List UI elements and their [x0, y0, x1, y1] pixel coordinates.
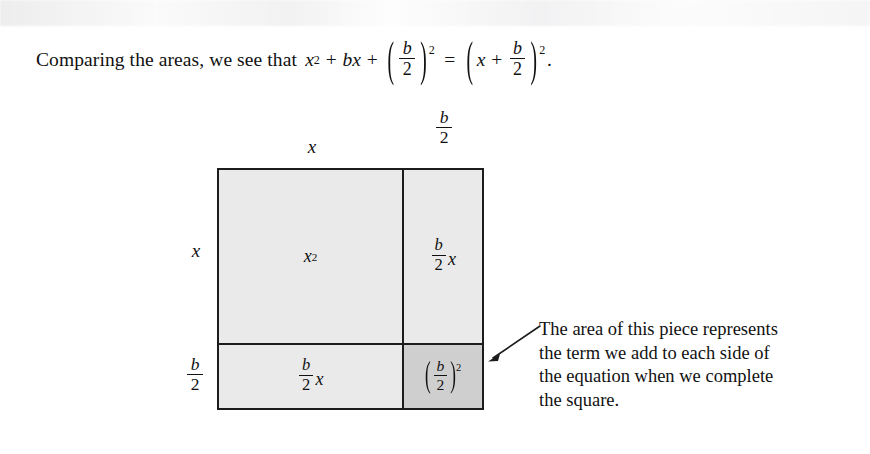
equation-term-b-over-2-squared: ( b 2 )2	[384, 40, 437, 80]
equation-term-bx: bx	[343, 50, 361, 70]
paren-close: )	[450, 355, 456, 397]
fraction-numerator: b	[436, 109, 451, 128]
b-symbol: b	[343, 50, 353, 70]
x-symbol: x	[308, 136, 316, 158]
fraction-b-over-2: b 2	[434, 358, 447, 393]
equation-term-x-squared: x2	[305, 50, 320, 70]
lead-sentence: Comparing the areas, we see that x2 + bx…	[36, 40, 552, 80]
cell-label: b 2 x	[298, 358, 324, 395]
fraction-numerator: b	[434, 358, 447, 375]
x-symbol: x	[305, 50, 314, 70]
paren-open: (	[388, 36, 395, 84]
area-cell-b-over-2-squared: ( b 2 )2	[404, 345, 482, 408]
paren-open: (	[425, 355, 431, 397]
equals-operator: =	[437, 50, 463, 70]
annotation-line-1: The area of this piece represents	[539, 318, 849, 342]
x-symbol: x	[477, 50, 486, 70]
annotation-line-4: the square.	[539, 389, 849, 413]
fraction-numerator: b	[187, 356, 202, 375]
dimension-label-left-b-over-2: b 2	[178, 350, 212, 402]
area-cell-x-squared: x2	[219, 170, 404, 345]
plus-operator-2: +	[361, 50, 384, 70]
fraction-b-over-2: b 2	[436, 109, 451, 148]
fraction-denominator: 2	[510, 58, 525, 78]
display-equation: x2 + bx + ( b 2 )2 = ( x + b 2 )2	[305, 40, 552, 80]
lead-sentence-text: Comparing the areas, we see that	[36, 50, 297, 70]
fraction-b-over-2: b 2	[432, 237, 446, 274]
cell-label: b 2 x	[430, 238, 456, 275]
fraction-b-over-2: b 2	[399, 39, 414, 79]
fraction-numerator: b	[432, 237, 446, 255]
fraction-numerator: b	[510, 39, 525, 58]
fraction-denominator: 2	[434, 375, 447, 393]
x-symbol: x	[304, 246, 312, 267]
paren-open: (	[466, 36, 473, 84]
dimension-label-top-x: x	[292, 136, 332, 158]
scan-artifact	[0, 0, 870, 26]
leader-arrow-left-icon	[480, 320, 544, 368]
annotation-line-2: the term we add to each side of	[539, 342, 849, 366]
sentence-period: .	[547, 50, 552, 70]
completing-the-square-diagram: x2 b 2 x b 2 x ( b 2 )2	[217, 168, 484, 410]
plus-operator-3: +	[485, 50, 508, 70]
fraction-denominator: 2	[187, 374, 202, 394]
fraction-numerator: b	[399, 39, 414, 58]
fraction-denominator: 2	[436, 127, 451, 147]
area-cell-b-over-2-times-x-top: b 2 x	[404, 170, 482, 345]
paren-close: )	[531, 36, 538, 84]
annotation-callout: The area of this piece represents the te…	[539, 318, 849, 412]
paren-close: )	[420, 36, 427, 84]
x-symbol: x	[315, 369, 323, 390]
fraction-denominator: 2	[399, 58, 414, 78]
x-symbol: x	[352, 50, 361, 70]
area-cell-b-over-2-times-x-bottom: b 2 x	[219, 345, 404, 408]
fraction-denominator: 2	[432, 255, 446, 274]
fraction-b-over-2: b 2	[510, 39, 525, 79]
fraction-b-over-2: b 2	[187, 356, 202, 395]
fraction-numerator: b	[299, 357, 313, 375]
annotation-line-3: the equation when we complete	[539, 365, 849, 389]
x-symbol: x	[192, 240, 200, 262]
fraction-b-over-2: b 2	[299, 357, 313, 394]
cell-label: x2	[304, 246, 318, 267]
dimension-label-left-x: x	[182, 240, 210, 262]
cell-label: ( b 2 )2	[423, 359, 463, 394]
equation-term-x-plus-b-over-2-squared: ( x + b 2 )2	[463, 40, 547, 80]
fraction-denominator: 2	[299, 375, 313, 394]
plus-operator-1: +	[320, 50, 343, 70]
dimension-label-top-b-over-2: b 2	[424, 103, 464, 155]
x-symbol: x	[448, 249, 456, 270]
